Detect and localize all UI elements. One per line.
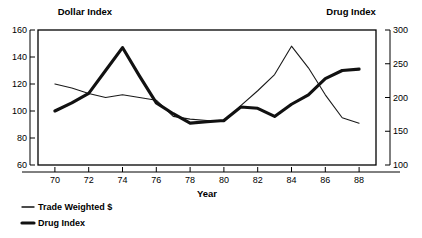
right-axis-tick-label: 100 bbox=[393, 160, 408, 170]
x-axis-tick-label: 88 bbox=[354, 175, 364, 185]
left-axis-tick-label: 60 bbox=[17, 160, 27, 170]
left-axis-tick-label: 140 bbox=[12, 52, 27, 62]
series-line-2 bbox=[55, 48, 359, 124]
x-axis-tick-label: 76 bbox=[151, 175, 161, 185]
x-axis-tick-label: 82 bbox=[253, 175, 263, 185]
legend-label-1: Trade Weighted $ bbox=[38, 202, 112, 212]
x-axis-tick-label: 78 bbox=[185, 175, 195, 185]
x-axis-tick-label: 84 bbox=[286, 175, 296, 185]
plot-frame bbox=[38, 30, 376, 165]
left-axis-tick-label: 160 bbox=[12, 25, 27, 35]
right-axis-tick-label: 200 bbox=[393, 93, 408, 103]
right-axis-title: Drug Index bbox=[326, 6, 376, 17]
legend-label-2: Drug Index bbox=[38, 218, 85, 228]
left-axis-title: Dollar Index bbox=[58, 6, 113, 17]
right-axis-tick-label: 150 bbox=[393, 126, 408, 136]
x-axis: 70727476788082848688 bbox=[22, 167, 400, 185]
x-axis-tick-label: 80 bbox=[219, 175, 229, 185]
left-axis: 6080100120140160 bbox=[12, 25, 35, 170]
x-axis-tick-label: 74 bbox=[117, 175, 127, 185]
dual-axis-line-chart: 6080100120140160100150200250300707274767… bbox=[0, 0, 422, 238]
left-axis-tick-label: 120 bbox=[12, 79, 27, 89]
left-axis-tick-label: 100 bbox=[12, 106, 27, 116]
x-axis-tick-label: 70 bbox=[50, 175, 60, 185]
x-axis-tick-label: 72 bbox=[84, 175, 94, 185]
right-axis-tick-label: 300 bbox=[393, 25, 408, 35]
x-axis-label: Year bbox=[197, 188, 217, 199]
x-axis-tick-label: 86 bbox=[320, 175, 330, 185]
right-axis-tick-label: 250 bbox=[393, 59, 408, 69]
left-axis-tick-label: 80 bbox=[17, 133, 27, 143]
chart-legend: Trade Weighted $Drug Index bbox=[22, 202, 112, 228]
chart-figure: 6080100120140160100150200250300707274767… bbox=[0, 0, 422, 238]
series-line-1 bbox=[55, 46, 359, 123]
right-axis: 100150200250300 bbox=[385, 25, 408, 170]
